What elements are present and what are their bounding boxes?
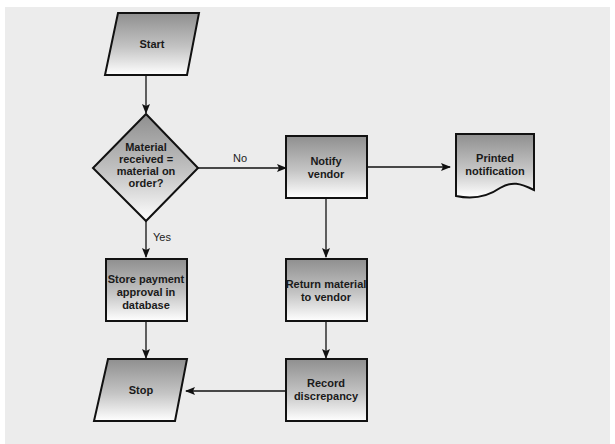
node-decision: Material received = material on order? (93, 114, 198, 221)
node-printed-label-line1: Printed (476, 152, 514, 164)
node-printed-label-line2: notification (465, 165, 525, 177)
node-store-payment: Store payment approval in database (106, 259, 187, 321)
node-stop: Stop (94, 359, 187, 421)
node-start: Start (105, 13, 199, 75)
node-decision-label-line3: material on (117, 165, 176, 177)
node-return-label-line1: Return material (286, 278, 367, 290)
node-notify-vendor: Notify vendor (286, 136, 367, 198)
node-record-label-line1: Record (307, 377, 345, 389)
node-printed-notification: Printed notification (456, 134, 534, 197)
flowchart: No Yes Start Material received = materia… (0, 0, 615, 444)
node-decision-label-line1: Material (125, 141, 167, 153)
node-return-material: Return material to vendor (286, 259, 367, 321)
edge-decision-to-store: Yes (146, 221, 171, 257)
node-store-label-line2: approval in (117, 286, 176, 298)
node-record-label-line2: discrepancy (294, 390, 359, 402)
edge-label-no: No (233, 152, 247, 164)
node-store-label-line3: database (122, 299, 170, 311)
node-store-label-line1: Store payment (108, 273, 185, 285)
node-notify-label-line1: Notify (310, 155, 342, 167)
node-stop-label: Stop (129, 384, 154, 396)
edge-decision-to-notify: No (198, 152, 286, 168)
node-return-label-line2: to vendor (301, 291, 352, 303)
node-notify-label-line2: vendor (308, 168, 345, 180)
node-decision-label-line4: order? (129, 177, 164, 189)
node-start-label: Start (139, 38, 164, 50)
edge-label-yes: Yes (153, 231, 171, 243)
node-decision-label-line2: received = (119, 153, 173, 165)
node-record-discrepancy: Record discrepancy (286, 359, 367, 421)
